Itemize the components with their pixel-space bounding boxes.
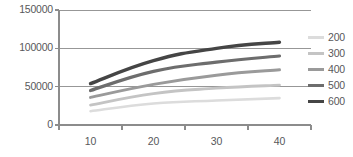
legend-swatch-300 <box>308 52 324 55</box>
legend-label-300: 300 <box>328 48 345 59</box>
legend-label-500: 500 <box>328 80 345 91</box>
line-chart: 050000100000150000 10203040 200300400500… <box>0 0 353 157</box>
x-tick-label-30: 30 <box>205 135 229 147</box>
legend-label-400: 400 <box>328 64 345 75</box>
legend-swatch-400 <box>308 68 324 71</box>
x-tick-label-10: 10 <box>79 135 103 147</box>
legend-swatch-500 <box>308 84 324 87</box>
legend-swatch-200 <box>308 36 324 39</box>
y-axis-tick-labels: 050000100000150000 <box>0 0 58 157</box>
legend-label-600: 600 <box>328 96 345 107</box>
legend-swatch-600 <box>308 100 324 103</box>
y-tick-label-50000: 50000 <box>0 80 53 92</box>
legend-item-500: 500 <box>308 77 353 93</box>
legend-item-300: 300 <box>308 45 353 61</box>
legend-item-600: 600 <box>308 93 353 109</box>
x-axis-ticks <box>59 125 311 130</box>
gridlines <box>59 10 311 125</box>
legend-item-200: 200 <box>308 29 353 45</box>
data-series-group <box>91 42 280 111</box>
legend-item-400: 400 <box>308 61 353 77</box>
x-tick-label-20: 20 <box>142 135 166 147</box>
y-tick-label-100000: 100000 <box>0 41 53 53</box>
chart-legend: 200300400500600 <box>308 29 353 109</box>
y-tick-label-150000: 150000 <box>0 3 53 15</box>
y-tick-label-0: 0 <box>0 118 53 130</box>
legend-label-200: 200 <box>328 32 345 43</box>
axis-lines <box>59 10 311 125</box>
x-tick-label-40: 40 <box>268 135 292 147</box>
